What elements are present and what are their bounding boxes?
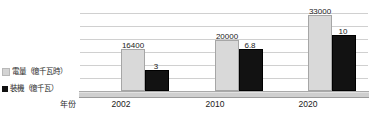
x-axis-tick-2010: 2010 bbox=[195, 99, 235, 110]
bar-chart: 電量（億千瓦時） 裝機（億千瓦） 16400 3 20000 6.8 bbox=[0, 0, 374, 123]
legend-swatch-icon-electricity bbox=[2, 68, 10, 76]
bar-value-label-electricity-2010: 20000 bbox=[207, 32, 247, 41]
bar-value-label-electricity-2002: 16400 bbox=[113, 41, 153, 50]
bar-capacity-2002 bbox=[145, 70, 169, 91]
bar-electricity-2010 bbox=[215, 40, 239, 91]
bar-electricity-2020 bbox=[308, 15, 332, 91]
plot-area: 16400 3 20000 6.8 33000 10 bbox=[80, 13, 368, 91]
bar-value-label-capacity-2002: 3 bbox=[145, 62, 167, 71]
bar-electricity-2002 bbox=[121, 49, 145, 91]
x-axis-tick-2002: 2002 bbox=[101, 99, 141, 110]
bar-capacity-2010 bbox=[239, 49, 263, 91]
bar-group-2020: 33000 10 bbox=[308, 13, 374, 91]
bar-value-label-capacity-2020: 10 bbox=[331, 27, 355, 36]
chart-legend: 電量（億千瓦時） 裝機（億千瓦） bbox=[2, 63, 80, 97]
legend-label-electricity: 電量（億千瓦時） bbox=[12, 67, 66, 76]
legend-label-capacity: 裝機（億千瓦） bbox=[10, 84, 58, 93]
chart-floor-face bbox=[79, 93, 369, 98]
bar-value-label-electricity-2020: 33000 bbox=[300, 7, 340, 16]
bar-group-2002: 16400 3 bbox=[121, 13, 207, 91]
bar-value-label-capacity-2010: 6.8 bbox=[237, 41, 263, 50]
x-axis-title: 年份 bbox=[60, 99, 76, 110]
bar-group-2010: 20000 6.8 bbox=[215, 13, 301, 91]
x-axis-tick-2020: 2020 bbox=[288, 99, 328, 110]
x-axis: 年份 2002 2010 2020 bbox=[0, 99, 374, 113]
legend-item-capacity: 裝機（億千瓦） bbox=[2, 80, 80, 97]
bar-capacity-2020 bbox=[332, 35, 356, 91]
legend-swatch-icon-capacity bbox=[2, 86, 8, 92]
legend-item-electricity: 電量（億千瓦時） bbox=[2, 63, 80, 80]
